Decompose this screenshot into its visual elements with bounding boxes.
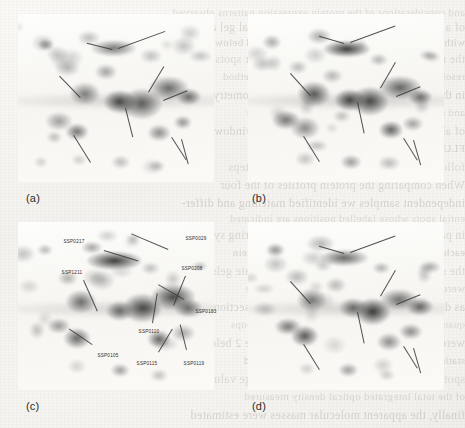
gel-protein-spot [174, 116, 191, 128]
gel-protein-spot [148, 331, 170, 348]
gel-protein-spot [309, 281, 324, 292]
gel-protein-spot [83, 269, 106, 285]
figure-canvas: and considerations of the protein expres… [0, 0, 465, 428]
gel-protein-spot [263, 35, 281, 49]
spot-label-ssp0115: SSP0115 [137, 361, 158, 366]
gel-protein-spot [248, 45, 268, 62]
spot-label-ssp0208: SSP0208 [181, 266, 202, 271]
gel-protein-spot [298, 82, 329, 106]
gel-horizontal-smear-band [248, 302, 444, 316]
gel-protein-spot [355, 38, 367, 50]
gel-protein-spot [340, 298, 366, 317]
gel-protein-spot [141, 159, 162, 175]
gel-protein-spot [116, 99, 138, 116]
gel-protein-spot [96, 64, 117, 79]
gel-protein-spot [378, 370, 395, 381]
gel-protein-spot [66, 291, 95, 313]
gel-protein-spot [160, 39, 174, 50]
gel-protein-spot [289, 61, 307, 74]
gel-protein-spot [172, 325, 195, 341]
gel-image-d [248, 222, 444, 390]
bleed-text-line: independent samples we identified matchi… [18, 196, 465, 211]
gel-protein-spot [35, 157, 48, 168]
gel-protein-spot [30, 322, 45, 339]
gel-protein-spot [111, 364, 129, 376]
gel-protein-spot [285, 269, 308, 285]
gel-image-b [248, 14, 444, 182]
gel-protein-spot [149, 77, 188, 99]
gel-protein-spot [82, 241, 102, 254]
gel-protein-spot [172, 37, 196, 55]
gel-protein-spot [51, 54, 70, 69]
gel-protein-spot [47, 131, 61, 143]
gel-protein-spot [425, 52, 440, 63]
gel-protein-spot [165, 271, 181, 287]
gel-protein-spot [37, 311, 52, 327]
gel-protein-spot [339, 364, 357, 377]
gel-protein-spot [177, 89, 202, 105]
gel-protein-spot [123, 237, 140, 249]
gel-protein-spot [321, 250, 368, 266]
gel-protein-spot [122, 89, 161, 119]
spot-label-ssp0119: SSP0119 [184, 361, 205, 366]
gel-protein-spot [326, 278, 346, 293]
gel-protein-spot [369, 53, 388, 66]
gel-panel-a [18, 14, 214, 182]
gel-horizontal-smear-band [18, 94, 214, 108]
gel-protein-spot [20, 280, 40, 293]
gel-protein-spot [379, 156, 400, 170]
gel-protein-spot [273, 111, 300, 129]
gel-protein-spot [126, 233, 140, 244]
gel-protein-spot [64, 329, 90, 348]
gel-protein-spot [419, 261, 440, 273]
gel-protein-spot [381, 289, 417, 310]
gel-protein-spot [267, 244, 284, 257]
gel-protein-spot [253, 302, 276, 316]
gel-protein-spot [407, 298, 434, 316]
gel-panel-b [248, 14, 444, 182]
gel-protein-spot [66, 124, 88, 141]
gel-protein-spot [276, 318, 301, 335]
gel-protein-spot [124, 294, 160, 322]
gel-protein-spot [298, 289, 326, 311]
gel-protein-spot [149, 161, 165, 172]
gel-protein-spot [18, 22, 24, 32]
spot-label-ssp0183: SSP0183 [195, 309, 216, 314]
gel-protein-spot [308, 29, 331, 43]
gel-protein-spot [402, 116, 423, 130]
bleed-text-line: finally, the apparent molecular masses w… [20, 408, 465, 423]
gel-horizontal-smear-band [248, 94, 444, 108]
gel-protein-spot [47, 46, 68, 62]
gel-protein-spot [374, 357, 393, 373]
gel-protein-spot [323, 41, 369, 57]
spot-label-ssp0110: SSP0110 [139, 329, 160, 334]
gel-protein-spot [333, 110, 350, 122]
gel-protein-spot [104, 91, 136, 114]
gel-protein-spot [420, 51, 437, 60]
gel-protein-spot [269, 106, 287, 121]
gel-protein-spot [400, 324, 423, 340]
gel-horizontal-smear-band [18, 302, 214, 316]
gel-protein-spot [72, 154, 87, 165]
gel-protein-spot [32, 35, 54, 52]
gel-protein-spot [414, 99, 429, 114]
gel-protein-spot [18, 246, 35, 263]
gel-protein-spot [301, 251, 325, 266]
gel-protein-spot [380, 76, 421, 100]
gel-protein-spot [70, 83, 99, 105]
gel-protein-spot [154, 337, 178, 351]
gel-protein-spot [47, 318, 70, 333]
gel-protein-spot [111, 156, 129, 169]
gel-protein-spot [56, 60, 79, 76]
gel-image-a [18, 14, 214, 182]
gel-protein-spot [356, 299, 390, 325]
gel-protein-spot [296, 152, 315, 166]
gel-protein-spot [68, 359, 86, 373]
gel-protein-spot [409, 89, 431, 104]
gel-protein-spot [307, 140, 328, 151]
gel-protein-spot [418, 265, 432, 283]
gel-protein-spot [148, 125, 170, 141]
gel-protein-spot [152, 285, 195, 310]
gel-protein-spot [305, 48, 326, 63]
gel-protein-spot [97, 229, 117, 241]
